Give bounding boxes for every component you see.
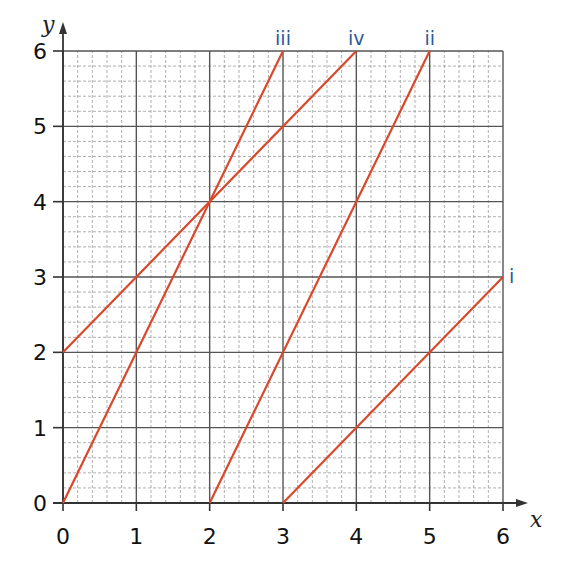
x-tick-label: 4	[349, 524, 363, 549]
x-tick-label: 3	[276, 524, 290, 549]
y-tick-label: 2	[33, 340, 47, 365]
y-axis-arrow-icon	[59, 22, 67, 34]
x-tick-label: 1	[129, 524, 143, 549]
x-tick-label: 5	[423, 524, 437, 549]
major-grid	[63, 51, 503, 503]
x-tick-label: 2	[203, 524, 217, 549]
series-label-i: i	[509, 265, 514, 287]
y-tick-label: 0	[33, 491, 47, 516]
y-tick-label: 4	[33, 190, 47, 215]
axes	[53, 22, 528, 511]
y-tick-label: 6	[33, 39, 47, 64]
x-tick-label: 0	[56, 524, 70, 549]
series-line-i	[283, 277, 503, 503]
x-axis-label: x	[530, 507, 543, 532]
y-tick-label: 5	[33, 114, 47, 139]
x-tick-label: 6	[496, 524, 510, 549]
y-axis-label: y	[41, 12, 55, 37]
x-axis-arrow-icon	[516, 499, 528, 507]
y-tick-label: 3	[33, 265, 47, 290]
series-label-ii: ii	[424, 27, 435, 49]
tick-labels: 01234560123456iiiiiiiv	[33, 27, 514, 549]
line-chart: 01234560123456iiiiiiiv x y	[0, 0, 566, 570]
series-label-iv: iv	[348, 27, 365, 49]
y-tick-label: 1	[33, 416, 47, 441]
series-label-iii: iii	[275, 27, 291, 49]
